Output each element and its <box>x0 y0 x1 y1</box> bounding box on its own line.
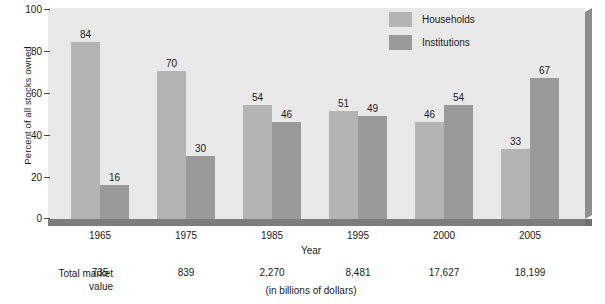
bar-households-1995[interactable]: 51 <box>329 111 358 219</box>
bar-value-households-1975: 70 <box>157 59 186 71</box>
y-tick-label-100: 100 <box>12 5 42 15</box>
x-tick-label-1995: 1995 <box>318 231 398 241</box>
bar-households-2000[interactable]: 46 <box>415 122 444 219</box>
footer-value-1985: 2,270 <box>232 268 312 278</box>
institutions-swatch-icon <box>389 35 412 50</box>
y-tick-mark-0 <box>44 218 50 219</box>
y-tick-mark-100 <box>44 9 50 10</box>
bar-institutions-2005[interactable]: 67 <box>530 78 559 219</box>
x-tick-label-1965: 1965 <box>60 231 140 241</box>
bar-value-institutions-1965: 16 <box>100 173 129 185</box>
bar-households-1965[interactable]: 84 <box>71 42 100 219</box>
footer-row-label-line2: value <box>89 281 113 292</box>
bar-households-1985[interactable]: 54 <box>243 105 272 219</box>
bar-institutions-1985[interactable]: 46 <box>272 122 301 219</box>
x-axis-title: Year <box>271 246 351 256</box>
bar-households-1975[interactable]: 70 <box>157 71 186 219</box>
bar-value-households-1995: 51 <box>329 99 358 111</box>
plot-baseline-slab <box>48 219 585 226</box>
legend-label-households: Households <box>422 15 475 25</box>
y-tick-mark-60 <box>44 93 50 94</box>
bar-group-1985: 54 46 <box>243 8 301 219</box>
y-tick-label-80: 80 <box>12 47 42 57</box>
plot-baseline-corner <box>585 219 592 226</box>
footer-value-1965: 735 <box>60 268 140 278</box>
legend-label-institutions: Institutions <box>422 38 470 48</box>
footer-value-1975: 839 <box>146 268 226 278</box>
y-tick-mark-80 <box>44 51 50 52</box>
y-tick-label-20: 20 <box>12 173 42 183</box>
y-tick-label-60: 60 <box>12 89 42 99</box>
legend: Households Institutions <box>389 12 539 58</box>
x-tick-label-2000: 2000 <box>404 231 484 241</box>
bar-institutions-1965[interactable]: 16 <box>100 185 129 219</box>
footer-units-note: (in billions of dollars) <box>236 286 386 296</box>
bar-group-1975: 70 30 <box>157 8 215 219</box>
bar-group-1965: 84 16 <box>71 8 129 219</box>
footer-value-1995: 8,481 <box>318 268 398 278</box>
bar-group-1995: 51 49 <box>329 8 387 219</box>
bar-value-institutions-2000: 54 <box>444 93 473 105</box>
y-tick-label-40: 40 <box>12 131 42 141</box>
bar-value-households-2005: 33 <box>501 137 530 149</box>
bar-institutions-2000[interactable]: 54 <box>444 105 473 219</box>
bar-households-2005[interactable]: 33 <box>501 149 530 219</box>
bar-institutions-1995[interactable]: 49 <box>358 116 387 219</box>
bar-value-institutions-1995: 49 <box>358 104 387 116</box>
bar-value-households-1965: 84 <box>71 30 100 42</box>
y-tick-label-0: 0 <box>12 214 42 224</box>
bar-value-institutions-2005: 67 <box>530 66 559 78</box>
footer-value-2005: 18,199 <box>490 268 570 278</box>
households-swatch-icon <box>389 12 412 27</box>
x-tick-label-1985: 1985 <box>232 231 312 241</box>
bar-value-institutions-1975: 30 <box>186 144 215 156</box>
footer-value-2000: 17,627 <box>404 268 484 278</box>
bar-institutions-1975[interactable]: 30 <box>186 156 215 219</box>
stock-ownership-bar-chart: Percent of all stocks owned 100 80 60 40… <box>0 0 605 304</box>
legend-item-households[interactable]: Households <box>389 12 539 27</box>
bar-value-institutions-1985: 46 <box>272 110 301 122</box>
x-tick-label-2005: 2005 <box>490 231 570 241</box>
bar-value-households-2000: 46 <box>415 110 444 122</box>
legend-item-institutions[interactable]: Institutions <box>389 35 539 50</box>
y-tick-mark-20 <box>44 177 50 178</box>
x-tick-label-1975: 1975 <box>146 231 226 241</box>
y-tick-mark-40 <box>44 135 50 136</box>
bar-value-households-1985: 54 <box>243 93 272 105</box>
plot-3d-right-shadow <box>585 8 592 219</box>
